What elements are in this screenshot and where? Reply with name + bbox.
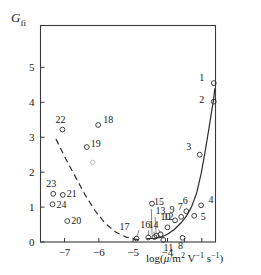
- data-point-3: [197, 152, 202, 157]
- x-axis-ticks: [65, 238, 216, 242]
- x-tick-label: −6: [93, 246, 105, 258]
- plot-frame: [41, 26, 216, 243]
- y-tick-label: 1: [29, 201, 35, 213]
- x-tick-label: −5: [127, 246, 139, 258]
- point-label-18: 18: [103, 114, 113, 125]
- y-axis-title-subscript: fi: [20, 18, 26, 28]
- data-point-20: [65, 219, 70, 224]
- point-label-22: 22: [55, 114, 65, 125]
- data-point-18: [96, 123, 101, 128]
- point-label-2: 2: [199, 94, 204, 105]
- data-point-5: [192, 213, 197, 218]
- x-title-suffix: ): [219, 252, 223, 265]
- x-title-slash: /m: [169, 252, 181, 264]
- x-title-v-exponent: −1: [195, 251, 204, 260]
- data-point-22: [60, 127, 65, 132]
- x-title-sec: s: [204, 252, 211, 264]
- y-tick-label: 5: [29, 61, 35, 73]
- point-label-3: 3: [186, 141, 191, 152]
- svg-text:Gfi: Gfi: [11, 10, 26, 28]
- point-label-7: 7: [178, 201, 183, 212]
- point-label-8: 8: [178, 240, 183, 251]
- figure-container: −7−6−5−4 012345 123456789101112131415161…: [0, 0, 261, 275]
- data-point-16: [146, 235, 151, 240]
- y-tick-label: 2: [29, 166, 35, 178]
- x-tick-label: −7: [59, 246, 71, 258]
- x-axis-title: log(μ/m2 V−1 s−1): [146, 251, 223, 265]
- point-label-5: 5: [201, 211, 206, 222]
- y-tick-label: 4: [29, 96, 35, 108]
- point-label-23: 23: [46, 178, 56, 189]
- data-point-labels: 123456789101112131415161718192021222324: [46, 72, 213, 253]
- point-label-20: 20: [71, 215, 81, 226]
- y-tick-label: 3: [29, 131, 35, 143]
- point-label-6: 6: [183, 195, 188, 206]
- x-title-volt: V: [185, 252, 196, 264]
- point-label-19: 19: [91, 138, 101, 149]
- point-label-16: 16: [140, 219, 150, 230]
- scatter-plot: −7−6−5−4 012345 123456789101112131415161…: [0, 0, 261, 275]
- data-point-24: [50, 202, 55, 207]
- y-axis-ticks: [41, 67, 45, 242]
- data-point-6: [184, 209, 189, 214]
- x-title-s-exponent: −1: [211, 251, 220, 260]
- data-point-10: [165, 225, 170, 230]
- point-label-21: 21: [67, 188, 77, 199]
- point-label-17: 17: [120, 221, 130, 232]
- x-title-prefix: log(: [146, 252, 164, 265]
- y-axis-tick-labels: 012345: [29, 61, 35, 248]
- data-point-4: [199, 203, 204, 208]
- point-label-24: 24: [57, 199, 67, 210]
- data-point-19: [84, 145, 89, 150]
- data-point-23: [51, 191, 56, 196]
- data-point-17: [134, 236, 139, 241]
- point-label-15: 15: [154, 196, 164, 207]
- data-point-21: [60, 192, 65, 197]
- y-axis-title: Gfi: [11, 10, 26, 28]
- data-point-7: [179, 214, 184, 219]
- svg-text:log(μ/m2 V−1 s−1): log(μ/m2 V−1 s−1): [146, 251, 223, 265]
- faint-data-point-1: [90, 160, 94, 164]
- point-label-4: 4: [209, 194, 214, 205]
- y-tick-label: 0: [29, 236, 35, 248]
- point-label-1: 1: [199, 72, 204, 83]
